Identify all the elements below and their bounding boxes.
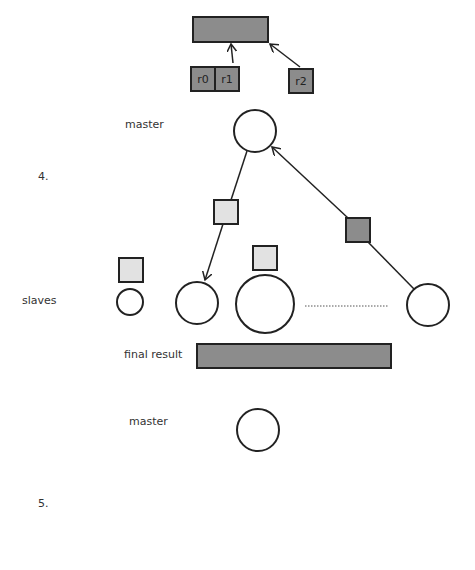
result-buffer-bar xyxy=(193,17,268,42)
final-result-label: final result xyxy=(124,348,182,361)
step-4-label: 4. xyxy=(38,170,49,183)
slaves-label: slaves xyxy=(22,294,57,307)
slave-node-3 xyxy=(236,275,294,333)
master-node xyxy=(234,110,276,152)
arrow-r01-to-bar xyxy=(231,44,233,63)
step-5-label: 5. xyxy=(38,497,49,510)
master-label-step5: master xyxy=(129,415,168,428)
slave-3-data-block xyxy=(253,246,277,270)
register-r0: r0 xyxy=(191,67,215,91)
register-r1: r1 xyxy=(215,67,239,91)
final-result-bar xyxy=(197,344,391,368)
register-r1-label: r1 xyxy=(221,73,233,86)
slave-node-2 xyxy=(176,282,218,324)
slave-1-data-block xyxy=(119,258,143,282)
data-block-light xyxy=(214,200,238,224)
arrow-r2-to-bar xyxy=(270,44,300,67)
register-r2-label: r2 xyxy=(295,75,307,88)
arrow-to-master xyxy=(272,147,348,218)
register-r0-label: r0 xyxy=(197,73,209,86)
master-label: master xyxy=(125,118,164,131)
diagram-canvas: r0 r1 r2 xyxy=(0,0,475,570)
data-block-dark xyxy=(346,218,370,242)
master-to-slave-link xyxy=(231,151,247,200)
slave-to-dark-block-link xyxy=(368,242,414,289)
slave-node-1 xyxy=(117,289,143,315)
master-node-step5 xyxy=(237,409,279,451)
register-r2: r2 xyxy=(289,69,313,93)
slave-node-n xyxy=(407,284,449,326)
arrow-to-slave-2 xyxy=(205,224,223,280)
